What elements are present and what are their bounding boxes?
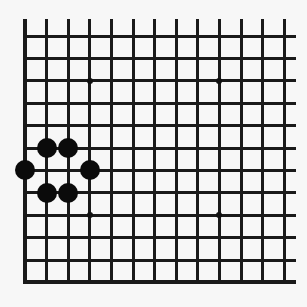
star-point-icon <box>87 212 93 218</box>
grid-line-horizontal <box>23 102 296 105</box>
black-stone <box>58 183 78 203</box>
star-point-icon <box>87 78 93 84</box>
grid-line-horizontal <box>23 214 296 217</box>
grid-line-horizontal <box>23 169 296 172</box>
black-stone <box>15 160 35 180</box>
black-stone <box>58 138 78 158</box>
star-point-icon <box>216 78 222 84</box>
board-bottom-edge <box>23 280 296 284</box>
go-board <box>0 0 307 307</box>
star-point-icon <box>216 212 222 218</box>
grid-line-horizontal <box>23 236 296 239</box>
black-stone <box>37 183 57 203</box>
grid-line-horizontal <box>23 35 296 38</box>
grid-line-horizontal <box>23 124 296 127</box>
grid-line-horizontal <box>23 259 296 262</box>
grid-line-horizontal <box>23 79 296 82</box>
black-stone <box>37 138 57 158</box>
grid-line-horizontal <box>23 57 296 60</box>
black-stone <box>80 160 100 180</box>
